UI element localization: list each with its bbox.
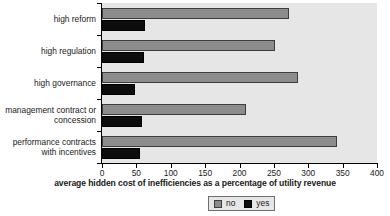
y-axis-label-line: concession <box>5 115 96 126</box>
legend-label-yes: yes <box>256 199 269 207</box>
y-axis-tick <box>97 67 102 68</box>
bar-group <box>102 8 377 31</box>
y-axis-tick <box>97 3 102 4</box>
y-axis-label: high reform <box>54 14 96 25</box>
legend-label-no: no <box>226 199 235 207</box>
y-axis-label-line: high reform <box>54 14 96 25</box>
y-axis-tick <box>97 35 102 36</box>
bar-group <box>102 40 377 63</box>
bar-no <box>102 72 298 83</box>
bar-yes <box>102 84 135 95</box>
y-axis-label-line: management contract or <box>5 105 96 116</box>
y-axis-label: high governance <box>34 78 96 89</box>
bar-yes <box>102 20 145 31</box>
bar-no <box>102 8 289 19</box>
y-axis-label-line: with incentives <box>13 147 96 158</box>
y-axis-label-line: high governance <box>34 78 96 89</box>
x-axis-tick-label: 400 <box>357 168 390 178</box>
y-axis-label-line: high regulation <box>41 46 96 57</box>
x-axis-title: average hidden cost of inefficiencies as… <box>0 178 390 188</box>
legend-item-yes[interactable]: yes <box>244 199 269 207</box>
y-axis-label: high regulation <box>41 46 96 57</box>
bar-no <box>102 104 246 115</box>
bar-group <box>102 136 377 159</box>
legend-swatch-no-icon <box>214 200 222 208</box>
bar-group <box>102 104 377 127</box>
chart-legend: no yes <box>208 196 275 211</box>
bar-yes <box>102 116 142 127</box>
bar-group <box>102 72 377 95</box>
bar-no <box>102 136 337 147</box>
bar-chart: high reformhigh regulationhigh governanc… <box>0 0 390 216</box>
y-axis-label: performance contractswith incentives <box>13 137 96 158</box>
bar-yes <box>102 148 140 159</box>
legend-swatch-yes-icon <box>244 200 252 208</box>
y-axis-label-line: performance contracts <box>13 137 96 148</box>
bar-no <box>102 40 275 51</box>
bar-yes <box>102 52 144 63</box>
y-axis-tick <box>97 131 102 132</box>
y-axis-label: management contract orconcession <box>5 105 96 126</box>
legend-item-no[interactable]: no <box>214 199 235 207</box>
y-axis-tick <box>97 99 102 100</box>
